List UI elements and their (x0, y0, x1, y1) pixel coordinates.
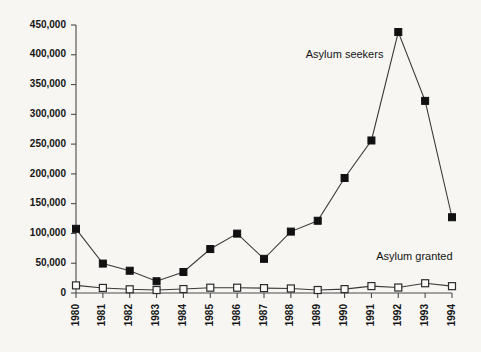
x-axis-tick-label: 1994 (446, 304, 457, 327)
data-point-marker (422, 280, 429, 287)
data-point-marker (99, 260, 106, 267)
y-axis: 050,000100,000150,000200,000250,000300,0… (30, 19, 76, 298)
y-axis-tick-label: 350,000 (30, 78, 67, 89)
x-axis-tick-label: 1985 (204, 304, 215, 327)
chart-canvas: 050,000100,000150,000200,000250,000300,0… (0, 0, 481, 352)
x-axis-tick-label: 1990 (338, 304, 349, 327)
x-axis-tick-label: 1981 (96, 304, 107, 327)
x-axis-tick-label: 1987 (258, 304, 269, 327)
x-axis-tick-label: 1986 (231, 304, 242, 327)
y-axis-tick-label: 300,000 (30, 108, 67, 119)
x-axis-tick-label: 1991 (365, 304, 376, 327)
y-axis-tick-label: 100,000 (30, 227, 67, 238)
data-point-marker (73, 225, 80, 232)
data-point-marker (287, 285, 294, 292)
data-point-marker (126, 267, 133, 274)
series-annotations: Asylum seekersAsylum granted (306, 48, 453, 262)
data-point-marker (368, 283, 375, 290)
data-point-marker (314, 217, 321, 224)
x-axis-tick-label: 1983 (150, 304, 161, 327)
data-point-marker (207, 284, 214, 291)
data-point-marker (153, 278, 160, 285)
data-point-marker (449, 283, 456, 290)
data-point-marker (153, 287, 160, 294)
data-point-marker (314, 287, 321, 294)
data-point-marker (261, 285, 268, 292)
data-point-marker (180, 286, 187, 293)
x-axis-tick-label: 1982 (123, 304, 134, 327)
data-point-marker (99, 284, 106, 291)
series-annotation-label: Asylum granted (376, 250, 452, 262)
series-annotation-label: Asylum seekers (306, 48, 384, 60)
data-point-marker (395, 29, 402, 36)
data-point-marker (395, 284, 402, 291)
y-axis-tick-label: 200,000 (30, 168, 67, 179)
data-point-marker (449, 214, 456, 221)
series-line-asylum-seekers (76, 32, 452, 281)
data-point-marker (207, 246, 214, 253)
data-point-marker (287, 228, 294, 235)
x-axis-tick-label: 1992 (392, 304, 403, 327)
data-point-marker (341, 175, 348, 182)
x-axis: 1980198119821983198419851986198719881989… (70, 293, 457, 326)
data-point-marker (234, 230, 241, 237)
y-axis-tick-label: 400,000 (30, 48, 67, 59)
data-point-marker (422, 97, 429, 104)
y-axis-tick-label: 50,000 (35, 257, 66, 268)
y-axis-tick-label: 0 (60, 287, 66, 298)
data-point-marker (126, 286, 133, 293)
asylum-statistics-line-chart: 050,000100,000150,000200,000250,000300,0… (0, 0, 481, 352)
y-axis-tick-label: 150,000 (30, 197, 67, 208)
x-axis-tick-label: 1988 (284, 304, 295, 327)
data-point-marker (341, 286, 348, 293)
x-axis-tick-label: 1989 (311, 304, 322, 327)
y-axis-tick-label: 250,000 (30, 138, 67, 149)
data-point-marker (261, 255, 268, 262)
data-point-marker (234, 284, 241, 291)
x-axis-tick-label: 1984 (177, 304, 188, 327)
y-axis-tick-label: 450,000 (30, 19, 67, 30)
x-axis-tick-label: 1980 (70, 304, 81, 327)
data-point-marker (73, 282, 80, 289)
x-axis-tick-label: 1993 (419, 304, 430, 327)
data-point-marker (368, 137, 375, 144)
data-point-marker (180, 268, 187, 275)
